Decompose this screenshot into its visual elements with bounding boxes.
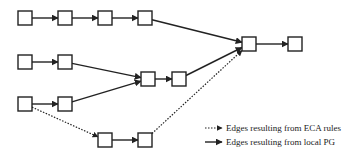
graph-node xyxy=(58,11,72,25)
local-pg-edge xyxy=(72,63,141,77)
legend: Edges resulting from ECA rules Edges res… xyxy=(205,123,341,147)
graph-node xyxy=(138,11,152,25)
graph-node xyxy=(172,72,186,86)
graph-node xyxy=(288,37,302,51)
local-pg-edge xyxy=(186,48,242,76)
legend-item-eca: Edges resulting from ECA rules xyxy=(205,123,341,133)
graph-node xyxy=(98,133,112,147)
eca-edge xyxy=(152,50,242,133)
local-pg-edge xyxy=(152,20,242,43)
legend-label-local-pg: Edges resulting from local PG xyxy=(226,137,335,147)
graph-node xyxy=(242,37,256,51)
graph-node xyxy=(141,72,155,86)
edges xyxy=(32,18,288,140)
graph-node xyxy=(98,11,112,25)
graph-node xyxy=(18,11,32,25)
local-pg-edge xyxy=(72,81,141,102)
graph-node xyxy=(58,97,72,111)
legend-item-local-pg: Edges resulting from local PG xyxy=(205,137,335,147)
graph-node xyxy=(18,55,32,69)
legend-label-eca: Edges resulting from ECA rules xyxy=(226,123,341,133)
process-graph-diagram: Edges resulting from ECA rules Edges res… xyxy=(0,0,355,160)
graph-node xyxy=(18,97,32,111)
graph-node xyxy=(58,55,72,69)
graph-node xyxy=(138,133,152,147)
